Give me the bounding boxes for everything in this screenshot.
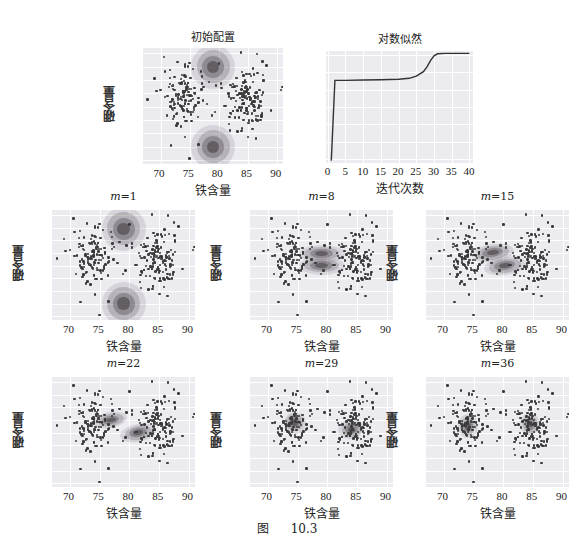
data-point <box>305 467 307 469</box>
data-point <box>111 409 113 411</box>
data-point <box>171 444 173 446</box>
x-tick-label: 85 <box>350 490 361 502</box>
data-point <box>525 268 527 270</box>
data-point <box>354 400 356 402</box>
data-point <box>252 67 254 69</box>
data-point <box>521 412 523 414</box>
data-point <box>526 258 528 260</box>
data-point <box>538 234 540 236</box>
data-point <box>116 429 118 431</box>
data-point <box>371 401 373 403</box>
gridline-horizontal <box>52 471 195 472</box>
data-point <box>537 228 539 230</box>
data-point <box>251 112 253 114</box>
data-point <box>111 248 113 250</box>
data-point <box>358 413 360 415</box>
x-tick-label: 70 <box>437 490 448 502</box>
x-tick-label: 25 <box>410 165 421 177</box>
data-point <box>112 258 114 260</box>
data-point <box>170 249 172 251</box>
data-point <box>78 237 80 239</box>
data-point <box>450 421 452 423</box>
data-point <box>254 96 256 98</box>
data-point <box>361 395 363 397</box>
data-point <box>172 84 174 86</box>
data-point <box>145 442 147 444</box>
data-point <box>163 278 165 280</box>
data-point <box>94 460 96 462</box>
y-axis-label: 硼含量 <box>10 412 27 448</box>
data-point <box>125 411 127 413</box>
data-point <box>276 404 278 406</box>
data-point <box>192 98 194 100</box>
data-point <box>306 260 308 262</box>
data-point <box>166 95 168 97</box>
data-point <box>371 221 373 223</box>
data-point <box>107 441 109 443</box>
data-point <box>82 411 84 413</box>
data-point <box>537 286 539 288</box>
data-point <box>156 435 158 437</box>
data-point <box>181 435 183 437</box>
data-point <box>485 415 487 417</box>
panel-title-value: =36 <box>491 357 514 370</box>
data-point <box>174 407 176 409</box>
data-point <box>283 282 285 284</box>
data-point <box>151 288 153 290</box>
data-point <box>482 427 484 429</box>
data-point <box>341 423 343 425</box>
data-point <box>345 412 347 414</box>
data-point <box>249 86 251 88</box>
data-point <box>99 436 101 438</box>
gridline-horizontal <box>52 445 195 446</box>
data-point <box>189 111 191 113</box>
data-point <box>453 397 455 399</box>
data-point <box>465 243 467 245</box>
data-point <box>293 278 295 280</box>
y-axis-label: 硼含量 <box>10 245 27 281</box>
data-point <box>211 114 213 116</box>
x-tick-label: 75 <box>183 167 194 179</box>
data-point <box>528 416 530 418</box>
data-point <box>537 278 539 280</box>
data-point <box>82 244 84 246</box>
data-point <box>171 426 173 428</box>
x-tick-label: 90 <box>182 490 193 502</box>
data-point <box>344 237 346 239</box>
data-point <box>309 403 311 405</box>
data-point <box>181 268 183 270</box>
data-point <box>356 438 358 440</box>
data-point <box>152 399 154 401</box>
data-point <box>289 243 291 245</box>
data-point <box>364 256 366 258</box>
data-point <box>305 300 307 302</box>
data-point <box>89 257 91 259</box>
data-point <box>139 281 141 283</box>
data-point <box>200 88 202 90</box>
data-point <box>526 452 528 454</box>
data-point <box>124 269 126 271</box>
data-point <box>163 56 165 58</box>
data-point <box>360 438 362 440</box>
data-point <box>231 86 233 88</box>
data-point <box>521 268 523 270</box>
data-point <box>513 441 515 443</box>
data-point <box>298 272 300 274</box>
data-point <box>151 380 153 382</box>
data-point <box>270 384 272 386</box>
data-point <box>308 398 310 400</box>
gridline-horizontal <box>250 291 393 292</box>
gridline-horizontal <box>52 458 195 459</box>
data-point <box>152 258 154 260</box>
data-point <box>508 431 510 433</box>
data-point <box>456 274 458 276</box>
data-point <box>298 259 300 261</box>
data-point <box>87 428 89 430</box>
data-point <box>523 442 525 444</box>
data-point <box>530 435 532 437</box>
gridline-horizontal <box>250 458 393 459</box>
data-point <box>517 256 519 258</box>
data-point <box>93 417 95 419</box>
data-point <box>76 421 78 423</box>
data-point <box>547 234 549 236</box>
